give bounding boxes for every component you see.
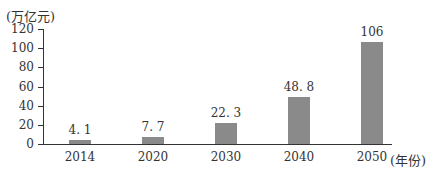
y-tick: [38, 87, 43, 88]
bar-value-label: 106: [347, 26, 397, 38]
bar-chart: (万亿元) 020406080100120 4. 120147. 7202022…: [0, 0, 440, 170]
y-tick-label: 0: [2, 138, 34, 150]
y-tick: [38, 29, 43, 30]
x-tick-label: 2050: [352, 151, 392, 163]
x-axis-line: [43, 144, 392, 145]
y-tick-label: 40: [2, 100, 34, 112]
bar-2014: [69, 140, 91, 144]
x-axis-unit-label: (年份): [390, 150, 426, 169]
bar-value-label: 48. 8: [274, 81, 324, 93]
y-tick: [38, 106, 43, 107]
bar-value-label: 4. 1: [55, 124, 105, 136]
y-axis-line: [43, 29, 44, 145]
y-tick: [38, 48, 43, 49]
bar-value-label: 22. 3: [201, 107, 251, 119]
y-tick-label: 60: [2, 81, 34, 93]
x-tick-label: 2020: [133, 151, 173, 163]
x-tick-label: 2014: [60, 151, 100, 163]
y-tick: [38, 67, 43, 68]
bar-2050: [361, 42, 383, 144]
bar-2020: [142, 137, 164, 144]
y-tick: [38, 144, 43, 145]
y-tick-label: 80: [2, 61, 34, 73]
y-tick-label: 100: [2, 42, 34, 54]
bar-value-label: 7. 7: [128, 121, 178, 133]
y-tick-label: 20: [2, 119, 34, 131]
x-tick-label: 2040: [279, 151, 319, 163]
bar-2040: [288, 97, 310, 144]
bar-2030: [215, 123, 237, 144]
y-tick-label: 120: [2, 23, 34, 35]
x-tick-label: 2030: [206, 151, 246, 163]
y-tick: [38, 125, 43, 126]
